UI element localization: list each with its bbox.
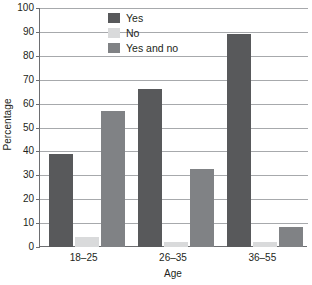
bar <box>101 111 125 247</box>
bar <box>164 242 188 247</box>
bar-group <box>227 8 303 247</box>
legend-item: Yes <box>108 12 178 24</box>
y-tick-mark <box>36 247 40 248</box>
y-tick-label: 70 <box>10 75 34 85</box>
bar <box>253 242 277 247</box>
y-tick-label: 10 <box>10 218 34 228</box>
legend-item: No <box>108 27 178 39</box>
legend-label: No <box>126 28 139 39</box>
x-tick-label: 36–55 <box>218 252 307 263</box>
legend-label: Yes and no <box>126 43 178 54</box>
chart-legend: YesNoYes and no <box>108 12 178 54</box>
y-tick-label: 50 <box>10 123 34 133</box>
legend-item: Yes and no <box>108 42 178 54</box>
y-tick-label: 90 <box>10 27 34 37</box>
y-tick-label: 60 <box>10 99 34 109</box>
y-tick-label: 80 <box>10 51 34 61</box>
y-tick-label: 40 <box>10 146 34 156</box>
bar <box>227 34 251 247</box>
y-tick-label: 20 <box>10 194 34 204</box>
y-tick-label: 100 <box>10 3 34 13</box>
bar-chart: Percentage 0102030405060708090100 18–252… <box>0 0 312 285</box>
bar <box>138 89 162 247</box>
x-tick-label: 18–25 <box>39 252 128 263</box>
legend-label: Yes <box>126 13 143 24</box>
gridline <box>40 247 308 248</box>
legend-swatch-icon <box>108 43 120 53</box>
x-tick-label: 26–35 <box>128 252 217 263</box>
bar <box>75 237 99 247</box>
bar <box>49 154 73 247</box>
legend-swatch-icon <box>108 13 120 23</box>
y-tick-label: 0 <box>10 242 34 252</box>
legend-swatch-icon <box>108 28 120 38</box>
bar <box>279 227 303 247</box>
y-tick-label: 30 <box>10 170 34 180</box>
bar <box>190 169 214 247</box>
x-axis-title: Age <box>39 268 307 279</box>
